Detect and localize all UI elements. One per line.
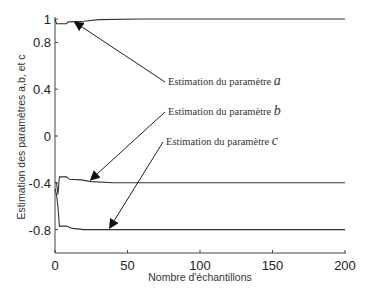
series-lines	[55, 19, 345, 230]
x-axis-title: Nombre d'échantillons	[148, 271, 252, 283]
y-tick-label: 1	[44, 12, 51, 27]
annotation-label-b: Estimation du paramètre b	[168, 103, 281, 118]
annotations: Estimation du paramètre aEstimation du p…	[75, 23, 281, 228]
parameter-estimation-chart: 10.80.40-0.4-0.8 050100150200 Estimation…	[0, 0, 373, 296]
annotation-arrow-b	[91, 112, 165, 179]
x-tick-label: 150	[262, 258, 284, 273]
x-tick-label: 50	[120, 258, 134, 273]
axes	[55, 17, 346, 253]
annotation-label-a: Estimation du paramètre a	[168, 73, 281, 88]
annotation-arrow-a	[75, 23, 165, 82]
annotation-label-c: Estimation du paramètre c	[166, 133, 279, 148]
x-tick-label: 200	[334, 258, 356, 273]
y-tick-label: 0	[44, 129, 51, 144]
x-tick-label: 0	[51, 258, 58, 273]
series-line-c	[55, 189, 345, 230]
y-tick-label: 0.4	[33, 82, 51, 97]
series-line-b	[55, 177, 345, 195]
y-tick-label: -0.8	[29, 223, 51, 238]
y-ticks: 10.80.40-0.4-0.8	[29, 12, 58, 238]
y-tick-label: -0.4	[29, 176, 51, 191]
series-line-a	[55, 19, 345, 24]
y-tick-label: 0.8	[33, 35, 51, 50]
y-axis-title: Estimation des paramètres a,b, et c	[15, 54, 27, 219]
